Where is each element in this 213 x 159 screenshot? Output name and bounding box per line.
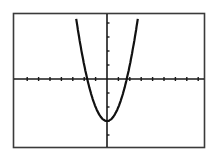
graph-screen: y = x^2 - 3 Graphing calculator screen s… xyxy=(0,0,213,159)
graph-plot xyxy=(0,0,213,159)
